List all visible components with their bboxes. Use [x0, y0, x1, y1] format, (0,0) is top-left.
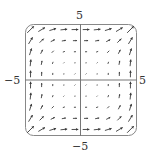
arrowhead-icon: [29, 71, 32, 73]
arrowhead-icon: [87, 128, 89, 131]
arrowhead-icon: [76, 128, 78, 131]
arrowhead-icon: [87, 40, 88, 42]
arrowhead-icon: [29, 82, 32, 84]
vector-arrow: [96, 51, 98, 52]
vector-arrow: [107, 51, 109, 53]
vector-arrow: [96, 107, 98, 108]
axis-label-right: 5: [139, 75, 146, 86]
arrowhead-icon: [118, 72, 120, 73]
vector-field-plot: [0, 0, 151, 156]
vector-arrow: [52, 95, 53, 97]
arrowhead-icon: [98, 28, 100, 31]
arrowhead-icon: [29, 60, 32, 62]
arrowhead-icon: [118, 83, 120, 84]
arrowhead-icon: [87, 117, 88, 119]
arrowhead-icon: [129, 60, 132, 62]
axis-label-left: −5: [4, 75, 20, 86]
vector-arrow: [63, 62, 64, 63]
vector-arrow: [63, 51, 65, 52]
axis-label-top: 5: [76, 10, 83, 21]
arrowhead-icon: [65, 128, 67, 131]
vector-arrow: [107, 106, 109, 108]
arrowhead-icon: [76, 28, 78, 31]
arrowhead-icon: [76, 40, 77, 42]
vector-arrow: [75, 74, 76, 75]
arrowhead-icon: [129, 93, 132, 95]
axis-label-bottom: −5: [72, 141, 88, 152]
vector-arrow: [52, 62, 53, 64]
vector-arrow: [63, 96, 64, 97]
vector-arrow: [52, 51, 54, 53]
vector-arrow: [52, 106, 54, 108]
arrowhead-icon: [41, 83, 43, 84]
vector-arrow: [97, 62, 98, 63]
arrowhead-icon: [129, 71, 132, 73]
arrowhead-icon: [98, 128, 100, 131]
vector-arrow: [86, 85, 87, 86]
vector-arrow: [108, 62, 109, 64]
arrowhead-icon: [29, 93, 32, 95]
vector-arrow: [75, 85, 76, 86]
arrowhead-icon: [65, 28, 67, 31]
arrowhead-icon: [129, 82, 132, 84]
vector-arrow: [97, 96, 98, 97]
arrowhead-icon: [76, 117, 77, 119]
vector-arrow: [63, 107, 65, 108]
vector-arrow: [86, 74, 87, 75]
arrowhead-icon: [41, 72, 43, 73]
vector-arrow: [108, 95, 109, 97]
arrowhead-icon: [87, 28, 89, 31]
